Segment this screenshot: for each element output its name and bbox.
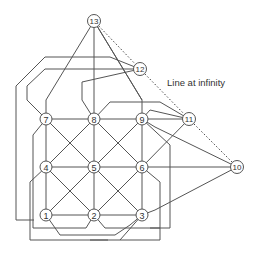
node-8-label: 8 bbox=[91, 115, 96, 125]
edge-diag-9-10 bbox=[142, 119, 237, 167]
node-10: 10 bbox=[231, 161, 244, 174]
node-3: 3 bbox=[136, 209, 148, 221]
node-1: 1 bbox=[40, 209, 52, 221]
node-2-label: 2 bbox=[91, 211, 96, 221]
edge-anti-8-4 bbox=[30, 119, 108, 240]
node-8: 8 bbox=[88, 113, 100, 125]
edge-12-left-inner bbox=[27, 69, 140, 119]
edge-13-12-9 bbox=[94, 21, 142, 100]
projective-plane-diagram: 1 2 3 4 5 6 7 8 9 10 11 12 bbox=[0, 0, 254, 258]
node-5: 5 bbox=[88, 161, 100, 173]
node-1-label: 1 bbox=[43, 211, 48, 221]
node-11: 11 bbox=[183, 113, 196, 126]
node-6-label: 6 bbox=[139, 163, 144, 173]
edge-diag-8-6 bbox=[90, 119, 160, 240]
edge-col-right bbox=[94, 21, 142, 215]
edge-12-left-outer bbox=[16, 57, 140, 220]
node-10-label: 10 bbox=[233, 163, 242, 172]
node-11-label: 11 bbox=[185, 115, 194, 124]
node-13: 13 bbox=[88, 15, 101, 28]
node-4-label: 4 bbox=[43, 163, 48, 173]
node-2: 2 bbox=[88, 209, 100, 221]
node-4: 4 bbox=[40, 161, 52, 173]
line-at-infinity-label: Line at infinity bbox=[167, 77, 225, 88]
node-3-label: 3 bbox=[139, 211, 144, 221]
edge-12-to-8 bbox=[82, 69, 140, 119]
node-12: 12 bbox=[134, 63, 147, 76]
edge-col-left bbox=[46, 21, 94, 215]
node-9: 9 bbox=[136, 113, 148, 125]
node-12-label: 12 bbox=[136, 65, 145, 74]
node-6: 6 bbox=[136, 161, 148, 173]
node-7-label: 7 bbox=[43, 115, 48, 125]
node-7: 7 bbox=[40, 113, 52, 125]
node-5-label: 5 bbox=[91, 163, 96, 173]
node-13-label: 13 bbox=[90, 17, 99, 26]
node-9-label: 9 bbox=[139, 115, 144, 125]
edge-3-10 bbox=[142, 167, 237, 215]
